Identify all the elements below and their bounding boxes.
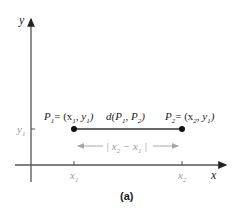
point-p2 — [179, 126, 185, 132]
difference-label: | x2 − x1 | — [106, 140, 147, 155]
p1-label: P1= (x1, y1) — [43, 110, 94, 125]
figure-caption: (a) — [120, 190, 134, 202]
x-axis-label: x — [210, 168, 217, 182]
y1-label: y1 — [16, 123, 25, 138]
distance-diagram: y x y1 x1 x2 P1= (x1, y1) P2= (x2, y1) d… — [0, 0, 233, 213]
distance-label: d(P1, P2) — [106, 110, 145, 125]
point-p1 — [71, 126, 77, 132]
x1-label: x1 — [69, 169, 78, 184]
x2-label: x2 — [177, 169, 187, 184]
p2-label: P2= (x2, y1) — [164, 110, 215, 125]
y-axis-label: y — [18, 13, 25, 27]
